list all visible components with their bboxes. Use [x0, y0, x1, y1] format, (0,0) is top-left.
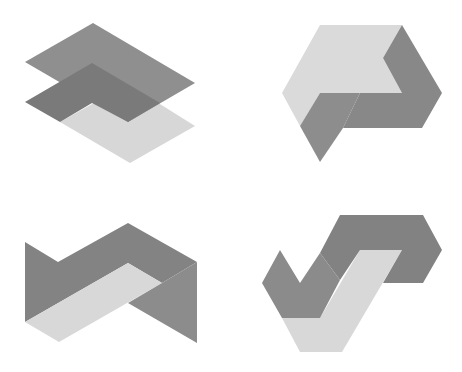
illusion-figure-canvas [0, 0, 462, 372]
shape-zigzag-band [25, 223, 197, 343]
shape-impossible-s [262, 215, 442, 352]
shape-stacked-planes [25, 23, 195, 163]
shape-impossible-p [282, 25, 442, 162]
impossible-shapes-figure [0, 0, 462, 372]
